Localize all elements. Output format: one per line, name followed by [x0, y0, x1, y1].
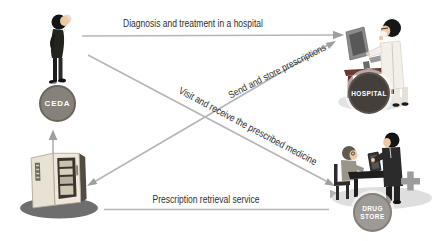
diagram-canvas: Diagnosis and treatment in a hospital Se… — [0, 0, 438, 241]
drugstore-label-line1: DRUG — [362, 205, 383, 213]
ceda-label: CEDA — [45, 99, 71, 108]
prescription-kiosk-icon — [18, 126, 104, 222]
patient-icon — [40, 10, 78, 90]
arrow-label-diagnosis: Diagnosis and treatment in a hospital — [123, 18, 263, 29]
drugstore-badge: DRUG STORE — [353, 193, 392, 232]
drugstore-label-line2: STORE — [360, 213, 384, 221]
arrow-diagnosis — [82, 31, 344, 39]
hospital-badge: HOSPITAL — [348, 72, 390, 114]
hospital-label: HOSPITAL — [351, 90, 387, 97]
arrowhead-upright-icon — [326, 41, 336, 49]
arrow-visit-receive — [88, 55, 335, 186]
ceda-badge: CEDA — [39, 85, 76, 122]
plus-icon — [401, 172, 420, 191]
arrow-label-retrieval: Prescription retrieval service — [153, 194, 260, 205]
